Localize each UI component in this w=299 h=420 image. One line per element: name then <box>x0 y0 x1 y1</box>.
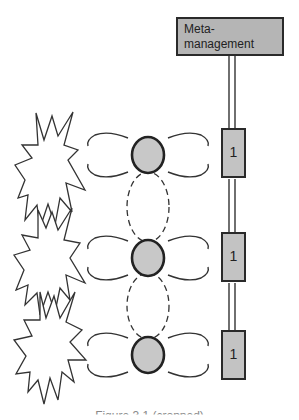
starbursts <box>14 112 86 404</box>
meta-management-label: Meta- management <box>184 22 254 52</box>
node-circle-1 <box>132 137 164 173</box>
starburst-icon-2 <box>14 208 85 315</box>
diagram-canvas: Meta- management 1 1 1 Figure 3.1 (cropp… <box>0 0 299 420</box>
meta-management-box: Meta- management <box>176 17 284 56</box>
node-circle-2 <box>132 240 164 276</box>
nodes <box>132 137 164 373</box>
unit-box-2: 1 <box>221 232 246 282</box>
starburst-icon-3 <box>14 292 86 404</box>
unit-box-1: 1 <box>221 128 246 178</box>
node-circle-3 <box>132 337 164 373</box>
unit-box-3: 1 <box>221 330 246 380</box>
unit-label-2: 1 <box>223 248 244 264</box>
unit-label-3: 1 <box>223 346 244 362</box>
unit-label-1: 1 <box>223 144 244 160</box>
starburst-icon-1 <box>15 112 85 228</box>
connector-vertical-double-line <box>229 55 235 330</box>
diagram-svg <box>0 0 299 420</box>
